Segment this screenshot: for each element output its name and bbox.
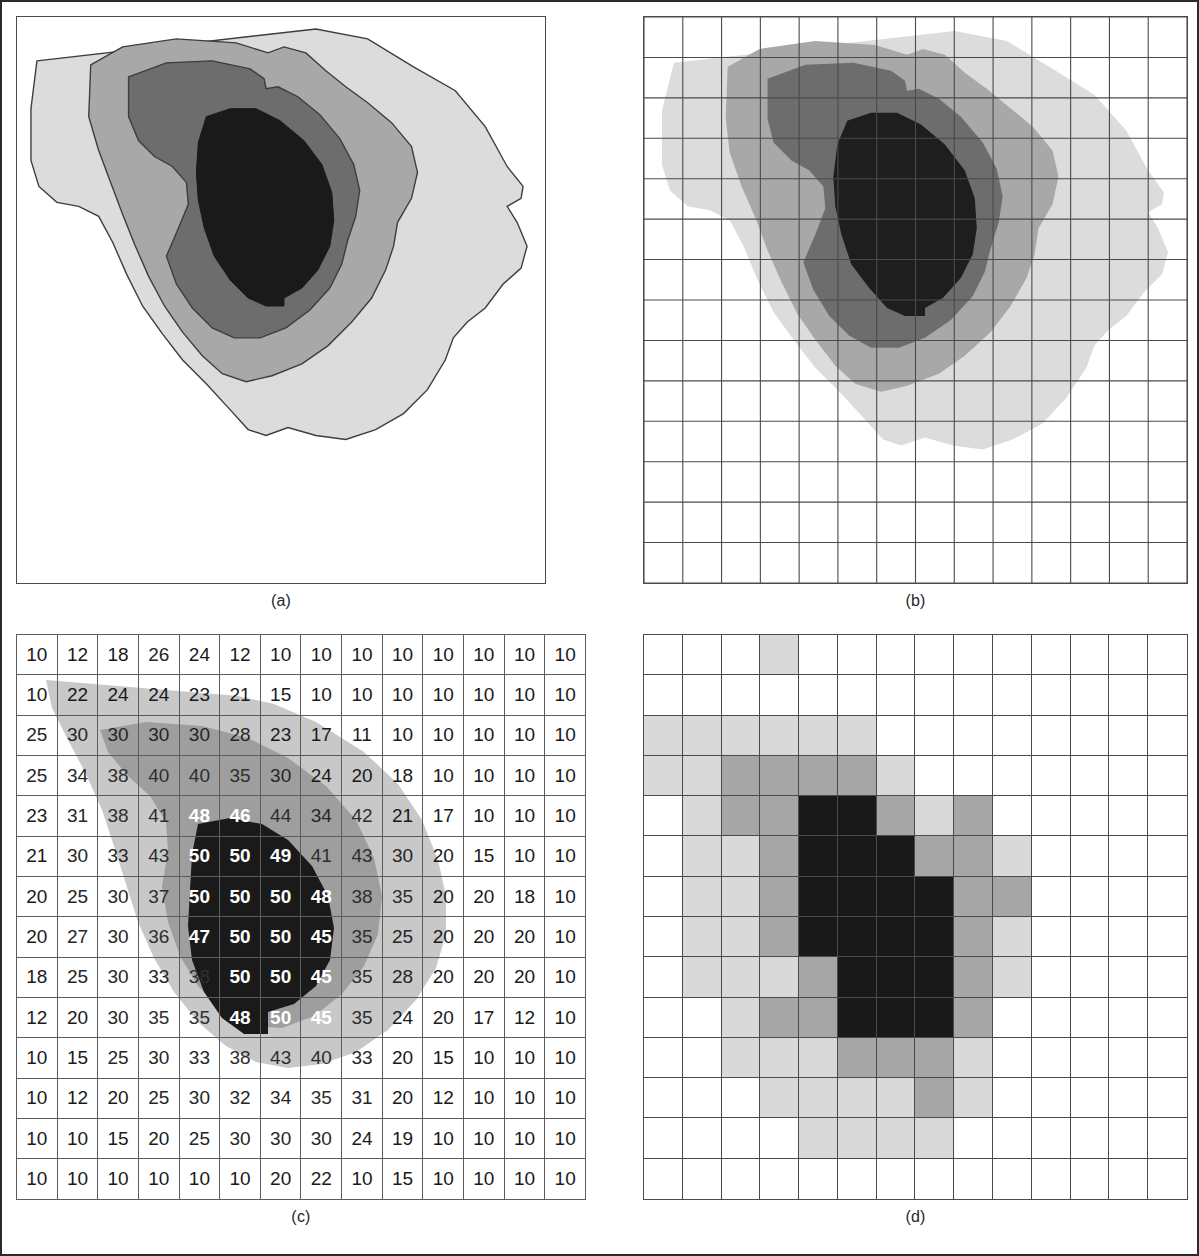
value-cell: 10 [98, 1159, 139, 1200]
raster-cell [954, 716, 993, 756]
raster-cell [1032, 1078, 1071, 1118]
value-cell: 10 [301, 675, 342, 715]
value-cell: 24 [301, 756, 342, 796]
value-cell: 50 [220, 917, 261, 957]
raster-cell [1148, 716, 1187, 756]
value-cell: 10 [464, 675, 505, 715]
value-cell: 25 [57, 877, 98, 917]
value-cell: 10 [464, 1078, 505, 1118]
panel-d: (d) [643, 634, 1188, 1240]
raster-cell [993, 716, 1032, 756]
value-cell: 43 [138, 836, 179, 876]
value-cell: 23 [179, 675, 220, 715]
raster-cell [722, 635, 761, 675]
raster-cell [954, 1038, 993, 1078]
raster-cell [1032, 1118, 1071, 1158]
value-cell: 10 [179, 1159, 220, 1200]
value-cell: 40 [138, 756, 179, 796]
value-cell: 24 [179, 635, 220, 675]
value-cell: 10 [17, 635, 58, 675]
raster-cell [1071, 1038, 1110, 1078]
raster-cell [1071, 998, 1110, 1038]
raster-cell [644, 957, 683, 997]
raster-cell [683, 1159, 722, 1199]
value-cell: 35 [220, 756, 261, 796]
value-cell: 10 [464, 1159, 505, 1200]
value-cell: 15 [423, 1038, 464, 1078]
raster-cell [915, 1118, 954, 1158]
value-cell: 10 [545, 715, 586, 755]
contour-map-over-grid [644, 17, 1187, 583]
raster-cell [838, 635, 877, 675]
raster-cell [644, 917, 683, 957]
value-cell: 20 [423, 917, 464, 957]
raster-cell [760, 877, 799, 917]
raster-cell [644, 1038, 683, 1078]
raster-cell [722, 877, 761, 917]
value-cell: 36 [138, 917, 179, 957]
value-cell: 21 [220, 675, 261, 715]
value-cell: 25 [98, 1038, 139, 1078]
panel-a-caption: (a) [16, 592, 546, 610]
value-cell: 46 [220, 796, 261, 836]
raster-cell [760, 1078, 799, 1118]
panel-c-caption: (c) [16, 1208, 586, 1226]
raster-cell [838, 756, 877, 796]
raster-cell [877, 756, 916, 796]
raster-cell [1109, 675, 1148, 715]
raster-cell [838, 1038, 877, 1078]
raster-cell [1148, 756, 1187, 796]
value-cell: 10 [545, 635, 586, 675]
raster-cell [1071, 675, 1110, 715]
value-cell: 26 [138, 635, 179, 675]
raster-cell [1032, 1038, 1071, 1078]
raster-cell [838, 675, 877, 715]
value-cell: 10 [17, 1159, 58, 1200]
value-cell: 35 [342, 957, 383, 997]
raster-cell [993, 957, 1032, 997]
value-cell: 11 [342, 715, 383, 755]
value-cell: 33 [98, 836, 139, 876]
value-cell: 20 [382, 1078, 423, 1118]
raster-cell [644, 716, 683, 756]
raster-cell [722, 1159, 761, 1199]
value-cell: 27 [57, 917, 98, 957]
raster-cell [722, 917, 761, 957]
value-cell: 10 [342, 635, 383, 675]
value-cell: 34 [301, 796, 342, 836]
raster-cell [877, 796, 916, 836]
raster-cell [954, 1118, 993, 1158]
value-cell: 37 [138, 877, 179, 917]
raster-cell [954, 635, 993, 675]
value-cell: 22 [301, 1159, 342, 1200]
raster-cell [838, 1159, 877, 1199]
raster-cell [1071, 756, 1110, 796]
value-cell: 10 [504, 1078, 545, 1118]
value-cell: 10 [423, 675, 464, 715]
panel-d-caption: (d) [643, 1208, 1188, 1226]
value-cell: 10 [545, 877, 586, 917]
value-cell: 10 [504, 836, 545, 876]
raster-cell [915, 917, 954, 957]
raster-cell [722, 756, 761, 796]
raster-cell [683, 756, 722, 796]
value-cell: 38 [220, 1038, 261, 1078]
value-cell: 25 [57, 957, 98, 997]
value-cell: 10 [545, 1119, 586, 1159]
table-row: 1022242423211510101010101010 [17, 675, 586, 715]
raster-cell [915, 1159, 954, 1199]
quantized-raster-grid [644, 635, 1187, 1199]
value-cell: 10 [260, 635, 301, 675]
value-cell: 50 [179, 877, 220, 917]
panel-c-plot: 1012182624121010101010101010102224242321… [16, 634, 586, 1200]
value-cell: 30 [179, 1078, 220, 1118]
value-cell: 21 [382, 796, 423, 836]
raster-cell [644, 635, 683, 675]
raster-cell [683, 877, 722, 917]
value-cell: 23 [260, 715, 301, 755]
raster-cell [722, 957, 761, 997]
value-cell: 12 [17, 998, 58, 1038]
raster-cell [1032, 998, 1071, 1038]
value-cell: 30 [98, 957, 139, 997]
raster-cell [683, 635, 722, 675]
